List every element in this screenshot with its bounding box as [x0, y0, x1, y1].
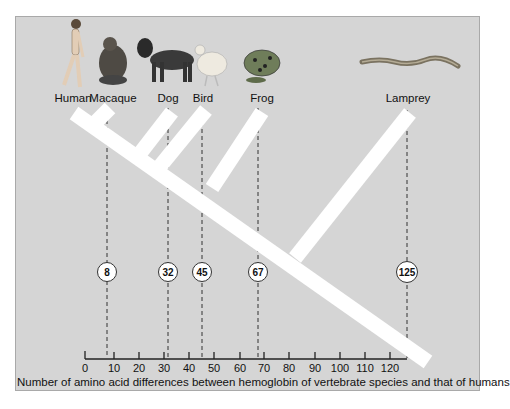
frog-branch: [212, 112, 262, 188]
tick-label: 60: [234, 362, 246, 374]
tick-label: 80: [283, 362, 295, 374]
species-label-bird: Bird: [193, 92, 213, 104]
bird-icon: [195, 45, 227, 86]
difference-badge-macaque: 8: [97, 262, 117, 282]
species-label-lamprey: Lamprey: [386, 92, 431, 104]
human-icon: [64, 19, 83, 87]
lamprey-icon: [362, 58, 458, 66]
species-label-dog: Dog: [157, 92, 178, 104]
tick-label: 0: [82, 362, 88, 374]
tick-label: 20: [133, 362, 145, 374]
tick-label: 120: [381, 362, 399, 374]
tick-label: 70: [258, 362, 270, 374]
lamprey-branch: [295, 113, 410, 258]
difference-badge-bird: 45: [192, 262, 212, 282]
tree-branches: [74, 108, 428, 362]
tick-label: 10: [108, 362, 120, 374]
dog-icon: [137, 38, 194, 82]
frog-icon: [244, 50, 280, 83]
tick-label: 30: [158, 362, 170, 374]
tick-label: 100: [331, 362, 349, 374]
difference-badge-lamprey: 125: [396, 261, 418, 283]
difference-badge-dog: 32: [158, 262, 178, 282]
species-label-macaque: Macaque: [89, 92, 136, 104]
difference-badge-frog: 67: [248, 262, 268, 282]
tick-label: 110: [356, 362, 374, 374]
macaque-icon: [99, 37, 127, 85]
species-label-human: Human: [54, 92, 91, 104]
x-axis: [85, 351, 407, 359]
tick-label: 50: [208, 362, 220, 374]
species-label-frog: Frog: [250, 92, 274, 104]
tick-label: 90: [309, 362, 321, 374]
x-axis-title: Number of amino acid differences between…: [17, 376, 510, 388]
tick-label: 40: [183, 362, 195, 374]
